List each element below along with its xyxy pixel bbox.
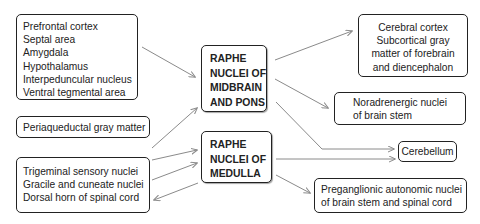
input-box-sensory-group: Trigeminal sensory nuclei Gracile and cu… — [16, 157, 150, 213]
hub-raphe-medulla: RAPHE NUCLEI OF MEDULLA — [201, 131, 272, 183]
arrow-medulla-to-dorsal-horn — [154, 183, 198, 200]
output-box-cerebellum: Cerebellum — [398, 141, 457, 162]
input-label: Interpeduncular nucleus — [23, 73, 137, 86]
input-label: Dorsal horn of spinal cord — [23, 191, 149, 204]
arrow-medulla-to-preganglionic — [276, 175, 310, 193]
output-label: of brain stem — [353, 109, 465, 122]
arrow-forebrain-to-midbrain — [142, 47, 195, 77]
hub-label: NUCLEI OF — [210, 153, 271, 168]
output-box-noradrenergic: Noradrenergic nuclei of brain stem — [334, 92, 466, 125]
input-label: Hypothalamus — [23, 60, 137, 73]
arrow-midbrain-to-noradrenergic — [275, 79, 328, 108]
output-label: of brain stem and spinal cord — [321, 196, 466, 209]
input-label: Amygdala — [23, 46, 137, 59]
input-label: Gracile and cuneate nuclei — [23, 178, 149, 191]
output-box-preganglionic: Preganglionic autonomic nuclei of brain … — [314, 178, 467, 213]
output-label: Cerebral cortex — [359, 21, 467, 34]
output-label: Noradrenergic nuclei — [353, 96, 465, 109]
output-label: Preganglionic autonomic nuclei — [321, 183, 466, 196]
arrow-pag-to-midbrain — [152, 108, 197, 148]
input-box-pag: Periaqueductal gray matter — [16, 116, 150, 138]
arrow-pag-to-medulla — [152, 150, 197, 160]
output-label: and diencephalon — [359, 61, 467, 74]
input-label: Trigeminal sensory nuclei — [23, 165, 149, 178]
output-box-cortex: Cerebral cortex Subcortical gray matter … — [358, 14, 468, 77]
arrow-sensory-to-medulla — [152, 163, 197, 180]
arrow-midbrain-to-cortex — [275, 31, 352, 60]
hub-label: AND PONS — [210, 96, 266, 111]
hub-label: NUCLEI OF — [210, 67, 266, 82]
input-label: Periaqueductal gray matter — [23, 121, 149, 134]
hub-label: MIDBRAIN — [210, 81, 266, 96]
hub-label: RAPHE — [210, 138, 271, 153]
output-label: matter of forebrain — [359, 47, 467, 60]
input-label: Septal area — [23, 33, 137, 46]
output-label: Cerebellum — [399, 145, 456, 158]
input-label: Prefrontal cortex — [23, 20, 137, 33]
output-label: Subcortical gray — [359, 34, 467, 47]
hub-raphe-midbrain-pons: RAPHE NUCLEI OF MIDBRAIN AND PONS — [201, 45, 267, 112]
input-box-forebrain-group: Prefrontal cortex Septal area Amygdala H… — [16, 14, 138, 100]
input-label: Ventral tegmental area — [23, 86, 137, 99]
hub-label: RAPHE — [210, 52, 266, 67]
hub-label: MEDULLA — [210, 167, 271, 182]
